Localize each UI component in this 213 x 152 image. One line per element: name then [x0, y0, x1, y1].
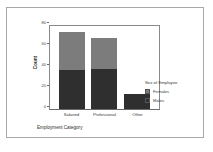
bar-segment-females-salaried[interactable]: [59, 32, 85, 70]
y-tick-20: 20: [42, 84, 49, 88]
legend-item-males[interactable]: Males: [145, 98, 203, 103]
bar-professional[interactable]: [91, 38, 117, 109]
bar-salaried[interactable]: [59, 32, 85, 109]
y-axis-title: Count: [33, 46, 38, 80]
legend-label-males: Males: [153, 98, 164, 103]
y-tick-40: 40: [42, 63, 49, 67]
bar-segment-females-professional[interactable]: [91, 38, 117, 69]
x-axis-categories: Salaried Professional Other: [49, 112, 160, 120]
y-tick-60: 60: [42, 42, 49, 46]
y-tick-80: 80: [42, 21, 49, 25]
bar-segment-males-professional[interactable]: [91, 69, 117, 109]
legend-swatch-females-icon: [145, 89, 150, 94]
x-category-professional: Professional: [92, 112, 118, 120]
legend-item-females[interactable]: Females: [145, 89, 203, 94]
plot-area: [49, 25, 160, 110]
chart-frame: 80 60 40 20 0 Count: [6, 7, 204, 138]
x-category-other: Other: [125, 112, 151, 120]
x-axis-title: Employment Category: [37, 125, 82, 130]
x-category-salaried: Salaried: [59, 112, 85, 120]
legend-title: Sex of Employee: [145, 80, 203, 85]
stacked-bar-chart: 80 60 40 20 0 Count: [7, 8, 203, 137]
legend: Sex of Employee Females Males: [145, 80, 203, 107]
legend-label-females: Females: [153, 89, 169, 94]
legend-swatch-males-icon: [145, 98, 150, 103]
bar-group: [50, 26, 159, 109]
bar-segment-males-salaried[interactable]: [59, 70, 85, 109]
